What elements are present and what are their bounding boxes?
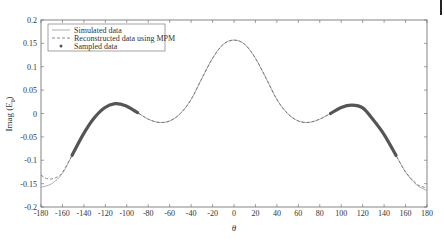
y-tick-label: -0.1 <box>24 156 37 165</box>
x-tick-label: 80 <box>316 209 324 218</box>
x-tick-label: 120 <box>357 209 369 218</box>
x-tick-label: 180 <box>421 209 433 218</box>
sampled-data-markers <box>72 104 138 156</box>
x-tick-label: -100 <box>119 209 134 218</box>
x-tick-label: 20 <box>251 209 259 218</box>
x-tick-label: 0 <box>232 209 236 218</box>
x-tick-label: 100 <box>335 209 347 218</box>
y-tick-label: -0.15 <box>20 180 37 189</box>
x-tick-label: -160 <box>55 209 70 218</box>
legend: Simulated dataReconstructed data using M… <box>48 24 175 51</box>
sampled-data-markers <box>331 105 397 155</box>
legend-marker-icon <box>60 45 63 48</box>
x-tick-label: -80 <box>143 209 154 218</box>
y-axis-label: Imag (Eθ) <box>4 96 16 131</box>
x-tick-label: 140 <box>378 209 390 218</box>
y-tick-label: 0.15 <box>23 39 37 48</box>
y-tick-label: 0.05 <box>23 86 37 95</box>
curves <box>41 40 427 191</box>
chart: -180-160-140-120-100-80-60-40-2002040608… <box>0 0 444 242</box>
y-tick-label: 0 <box>33 110 37 119</box>
x-tick-label: -140 <box>77 209 92 218</box>
x-tick-label: 40 <box>273 209 281 218</box>
y-tick-label: 0.2 <box>27 16 37 25</box>
legend-label: Sampled data <box>74 42 118 51</box>
y-tick-label: -0.2 <box>24 203 37 212</box>
x-tick-label: -60 <box>164 209 175 218</box>
y-tick-label: -0.05 <box>20 133 37 142</box>
x-tick-label: -20 <box>207 209 218 218</box>
x-tick-label: -120 <box>98 209 113 218</box>
y-tick-label: 0.1 <box>27 63 37 72</box>
x-tick-label: 60 <box>294 209 302 218</box>
x-tick-label: 160 <box>400 209 412 218</box>
x-tick-label: -40 <box>186 209 197 218</box>
x-axis-label: θ <box>232 223 237 233</box>
